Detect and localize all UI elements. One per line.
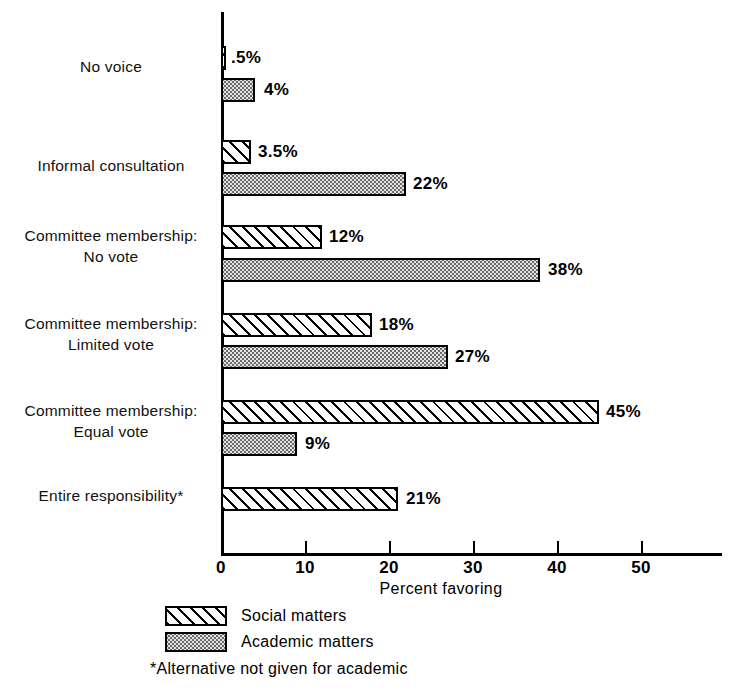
bar-social-informal-consultation (221, 140, 251, 164)
bar-value-social-no-voice: .5% (231, 46, 261, 70)
bar-value-social-informal-consultation: 3.5% (258, 140, 298, 164)
bar-social-committee-no-vote (221, 225, 322, 249)
bar-value-social-committee-no-vote: 12% (329, 225, 364, 249)
x-tick-label-20: 20 (369, 558, 409, 578)
bar-social-entire-responsibility (221, 487, 398, 511)
x-tick-label-50: 50 (621, 558, 661, 578)
bar-value-academic-no-voice: 4% (264, 78, 289, 102)
x-tick-0 (221, 541, 223, 554)
bar-social-committee-limited-vote (221, 313, 372, 337)
bar-academic-committee-equal-vote (221, 432, 297, 456)
category-label-entire-responsibility: Entire responsibility* (6, 485, 216, 506)
legend-item-social: Social matters (165, 604, 635, 630)
x-tick-40 (557, 541, 559, 554)
bar-value-academic-committee-no-vote: 38% (548, 258, 583, 282)
x-axis-title: Percent favoring (221, 580, 661, 598)
plot-area: 0 10 20 30 40 50 .5% 4% 3.5% 22% 12% 38%… (221, 0, 726, 556)
x-tick-label-10: 10 (285, 558, 325, 578)
category-label-committee-limited-vote: Committee membership: Limited vote (6, 313, 216, 355)
legend-footnote: *Alternative not given for academic (150, 660, 408, 678)
category-label-committee-equal-vote: Committee membership: Equal vote (6, 400, 216, 442)
legend-swatch-academic-icon (165, 632, 227, 652)
bar-academic-no-voice (221, 78, 255, 102)
legend: Social matters Academic matters *Alterna… (165, 604, 635, 656)
bar-value-social-committee-limited-vote: 18% (379, 313, 414, 337)
x-tick-50 (641, 541, 643, 554)
bar-social-committee-equal-vote (221, 400, 599, 424)
bar-chart: No voice Informal consultation Committee… (0, 0, 746, 694)
bar-value-academic-committee-equal-vote: 9% (305, 432, 330, 456)
x-tick-label-40: 40 (537, 558, 577, 578)
legend-swatch-social-icon (165, 606, 227, 626)
x-tick-label-30: 30 (453, 558, 493, 578)
bar-value-social-committee-equal-vote: 45% (606, 400, 641, 424)
category-label-committee-no-vote: Committee membership: No vote (6, 225, 216, 267)
bar-academic-committee-no-vote (221, 258, 540, 282)
bar-academic-committee-limited-vote (221, 345, 448, 369)
bar-social-no-voice (221, 46, 226, 70)
legend-label-social: Social matters (241, 604, 347, 628)
bar-value-social-entire-responsibility: 21% (406, 487, 441, 511)
bar-academic-informal-consultation (221, 172, 406, 196)
x-tick-10 (305, 541, 307, 554)
x-tick-30 (473, 541, 475, 554)
bar-value-academic-informal-consultation: 22% (413, 172, 448, 196)
x-axis-line (221, 553, 722, 556)
category-label-informal-consultation: Informal consultation (6, 155, 216, 176)
x-tick-20 (389, 541, 391, 554)
legend-label-academic: Academic matters (241, 630, 374, 654)
x-tick-label-0: 0 (201, 558, 241, 578)
bar-value-academic-committee-limited-vote: 27% (455, 345, 490, 369)
category-label-no-voice: No voice (6, 56, 216, 77)
legend-item-academic: Academic matters (165, 630, 635, 656)
